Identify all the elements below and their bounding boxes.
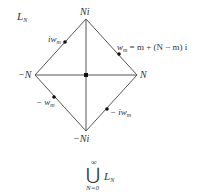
eq-rhs: = m + (N − m) i xyxy=(130,42,188,52)
label-main: iw xyxy=(48,34,57,44)
label-main: − w xyxy=(36,97,50,107)
union-term-sub: N xyxy=(110,177,114,183)
diagram-title: LN xyxy=(17,11,27,23)
point-neg-iw-m xyxy=(105,107,109,111)
point-label-iw-m: iwm xyxy=(48,35,61,45)
vertex-label-top: Ni xyxy=(80,7,89,17)
vertex-label-bottom: −Ni xyxy=(73,134,89,144)
point-label-neg-w-m: − wm xyxy=(36,98,55,108)
title-sub: N xyxy=(23,17,27,23)
vertex-label-right: N xyxy=(140,70,147,80)
label-sub: m xyxy=(50,102,54,108)
vertex-label-left: −N xyxy=(18,70,31,80)
label-main: − iw xyxy=(110,107,127,117)
union-symbol: ⋃ xyxy=(86,166,100,183)
equation-w-m: wm = m + (N − m) i xyxy=(117,43,187,53)
union-term: LN xyxy=(104,171,114,183)
label-sub: m xyxy=(127,112,131,118)
label-sub: m xyxy=(57,39,61,45)
eq-lhs-sub: m xyxy=(123,47,127,53)
union-lower-limit: N=0 xyxy=(86,185,99,192)
origin-point xyxy=(84,73,88,77)
point-label-neg-iw-m: − iwm xyxy=(110,108,131,118)
point-iw-m xyxy=(63,40,67,44)
